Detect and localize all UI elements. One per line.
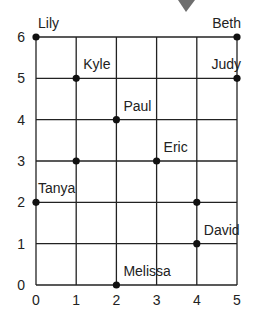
data-point xyxy=(113,116,120,123)
y-tick-label: 6 xyxy=(17,29,25,45)
y-tick-label: 4 xyxy=(17,112,25,128)
x-tick-label: 5 xyxy=(233,292,241,308)
data-point xyxy=(233,75,240,82)
x-tick-label: 1 xyxy=(72,292,80,308)
point-label: Eric xyxy=(164,139,188,155)
data-point xyxy=(193,199,200,206)
y-tick-label: 5 xyxy=(17,70,25,86)
data-point xyxy=(32,33,39,40)
data-point xyxy=(73,75,80,82)
point-label: Melissa xyxy=(123,263,171,279)
y-tick-label: 0 xyxy=(17,277,25,293)
data-point xyxy=(73,157,80,164)
point-label: Lily xyxy=(38,15,59,31)
point-label: Judy xyxy=(211,56,241,72)
top-pointer-marker xyxy=(178,0,195,12)
y-tick-label: 1 xyxy=(17,236,25,252)
y-tick-label: 2 xyxy=(17,194,25,210)
x-tick-label: 3 xyxy=(153,292,161,308)
data-point xyxy=(233,33,240,40)
data-point xyxy=(113,281,120,288)
x-tick-label: 2 xyxy=(113,292,121,308)
point-label: Tanya xyxy=(38,180,76,196)
x-tick-label: 0 xyxy=(32,292,40,308)
data-point xyxy=(193,240,200,247)
point-label: Paul xyxy=(123,98,151,114)
point-label: David xyxy=(204,222,240,238)
data-point xyxy=(32,199,39,206)
coordinate-grid-chart: 0123450123456 LilyBethKyleJudyPaulEricTa… xyxy=(0,0,263,319)
data-point xyxy=(153,157,160,164)
x-tick-label: 4 xyxy=(193,292,201,308)
point-label: Beth xyxy=(212,15,241,31)
y-tick-label: 3 xyxy=(17,153,25,169)
point-label: Kyle xyxy=(83,56,110,72)
